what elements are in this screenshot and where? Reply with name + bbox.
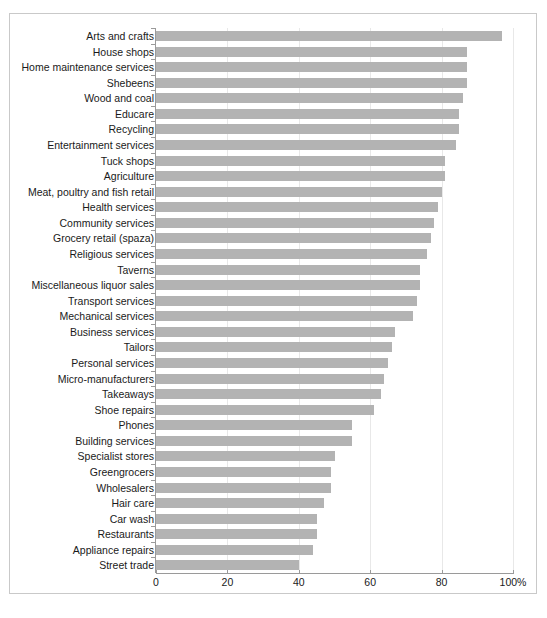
bar xyxy=(156,529,317,539)
bar-row xyxy=(156,433,522,450)
category-label: Religious services xyxy=(69,246,154,263)
bar xyxy=(156,545,313,555)
plot-area xyxy=(156,28,522,571)
bar xyxy=(156,47,467,57)
bar-row xyxy=(156,168,522,185)
x-axis: 020406080100% xyxy=(156,573,522,603)
x-tick-label: 100% xyxy=(500,576,527,588)
y-tick-mark xyxy=(151,215,155,216)
category-label: Shebeens xyxy=(107,75,154,92)
bar xyxy=(156,62,467,72)
bar-row xyxy=(156,417,522,434)
bar-row xyxy=(156,448,522,465)
bar-row xyxy=(156,355,522,372)
category-label: Building services xyxy=(75,433,154,450)
bar xyxy=(156,187,442,197)
bar-row xyxy=(156,542,522,559)
y-tick-mark xyxy=(151,44,155,45)
category-label: Shoe repairs xyxy=(94,402,154,419)
x-tick-mark xyxy=(227,570,228,574)
category-label: Arts and crafts xyxy=(86,28,154,45)
x-tick-mark xyxy=(156,570,157,574)
y-tick-mark xyxy=(151,106,155,107)
x-tick-label: 0 xyxy=(153,576,159,588)
bar xyxy=(156,109,459,119)
bar-row xyxy=(156,464,522,481)
category-label: Restaurants xyxy=(97,526,154,543)
y-tick-mark xyxy=(151,402,155,403)
category-label: Business services xyxy=(70,324,154,341)
y-tick-mark xyxy=(151,542,155,543)
category-label: Recycling xyxy=(108,121,154,138)
chart-frame: Arts and craftsHouse shopsHome maintenan… xyxy=(9,13,537,594)
x-tick-mark xyxy=(299,570,300,574)
bar xyxy=(156,280,420,290)
y-tick-mark xyxy=(151,121,155,122)
category-label: Educare xyxy=(115,106,154,123)
x-axis-line xyxy=(156,573,513,574)
y-tick-mark xyxy=(151,308,155,309)
bar-row xyxy=(156,402,522,419)
y-tick-mark xyxy=(151,386,155,387)
y-tick-mark xyxy=(151,464,155,465)
bar-row xyxy=(156,199,522,216)
bar xyxy=(156,93,463,103)
category-label: Specialist stores xyxy=(78,448,154,465)
x-tick-mark xyxy=(513,570,514,574)
bar xyxy=(156,342,392,352)
x-tick-label: 80 xyxy=(436,576,448,588)
bar-row xyxy=(156,90,522,107)
category-label: Agriculture xyxy=(104,168,154,185)
category-label: House shops xyxy=(93,44,154,61)
y-tick-mark xyxy=(151,90,155,91)
bar xyxy=(156,265,420,275)
bar xyxy=(156,436,352,446)
y-tick-mark xyxy=(151,526,155,527)
category-label-column: Arts and craftsHouse shopsHome maintenan… xyxy=(20,28,154,573)
bar-row xyxy=(156,386,522,403)
bar xyxy=(156,202,438,212)
category-label: Meat, poultry and fish retail xyxy=(28,184,154,201)
y-tick-mark xyxy=(151,324,155,325)
y-tick-mark xyxy=(151,277,155,278)
bar-row xyxy=(156,230,522,247)
category-label: Transport services xyxy=(68,293,154,310)
bar xyxy=(156,514,317,524)
bar-row xyxy=(156,59,522,76)
bar xyxy=(156,358,388,368)
y-tick-mark xyxy=(151,433,155,434)
bar-row xyxy=(156,293,522,310)
bar-row xyxy=(156,526,522,543)
y-tick-mark xyxy=(151,339,155,340)
y-tick-mark xyxy=(151,184,155,185)
bar-row xyxy=(156,495,522,512)
x-tick-mark xyxy=(442,570,443,574)
bar xyxy=(156,374,384,384)
bar xyxy=(156,405,374,415)
y-tick-mark xyxy=(151,495,155,496)
y-tick-mark xyxy=(151,262,155,263)
y-tick-mark xyxy=(151,75,155,76)
bar xyxy=(156,560,299,570)
category-label: Wholesalers xyxy=(96,480,154,497)
category-label: Appliance repairs xyxy=(73,542,154,559)
category-label: Car wash xyxy=(110,511,154,528)
bar-row xyxy=(156,324,522,341)
bar-row xyxy=(156,75,522,92)
x-tick-label: 60 xyxy=(364,576,376,588)
category-label: Tailors xyxy=(124,339,154,356)
bar xyxy=(156,249,427,259)
bar xyxy=(156,389,381,399)
bar xyxy=(156,124,459,134)
y-tick-mark xyxy=(151,168,155,169)
category-label: Hair care xyxy=(111,495,154,512)
category-label: Tuck shops xyxy=(101,153,154,170)
bar xyxy=(156,483,331,493)
bar xyxy=(156,171,445,181)
bar-row xyxy=(156,44,522,61)
bar-row xyxy=(156,184,522,201)
bar-row xyxy=(156,121,522,138)
bar xyxy=(156,327,395,337)
y-tick-mark xyxy=(151,480,155,481)
y-tick-mark xyxy=(151,153,155,154)
